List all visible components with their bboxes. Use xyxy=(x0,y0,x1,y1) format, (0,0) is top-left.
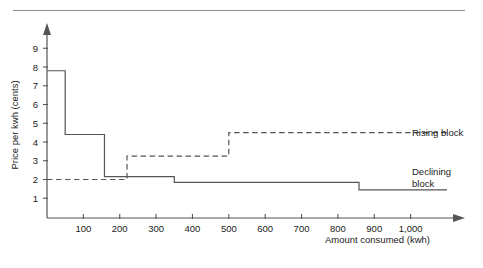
block-pricing-chart: 123456789 1002003004005006007008009001,0… xyxy=(0,0,483,268)
y-tick-label-5: 5 xyxy=(33,118,38,129)
x-tick-label-800: 800 xyxy=(330,223,346,234)
y-axis-title: Price per kwh (cents) xyxy=(9,80,20,169)
declining-block-series xyxy=(47,71,447,190)
x-tick-label-1,000: 1,000 xyxy=(399,223,423,234)
y-tick-label-9: 9 xyxy=(33,43,38,54)
rising-block-series xyxy=(47,133,447,180)
y-tick-label-2: 2 xyxy=(33,174,38,185)
x-tick-label-100: 100 xyxy=(75,223,91,234)
x-tick-label-900: 900 xyxy=(366,223,382,234)
legend-label-rising-block: Rising block xyxy=(412,127,463,138)
legend-label-declining-block-line1: Declining xyxy=(412,166,451,177)
figure-container: 123456789 1002003004005006007008009001,0… xyxy=(0,0,483,268)
y-tick-label-7: 7 xyxy=(33,80,38,91)
y-tick-label-1: 1 xyxy=(33,193,38,204)
y-tick-label-3: 3 xyxy=(33,155,38,166)
y-axis-arrow-icon xyxy=(43,23,51,35)
x-tick-label-400: 400 xyxy=(185,223,201,234)
x-axis-arrow-icon xyxy=(453,214,465,222)
x-tick-label-300: 300 xyxy=(148,223,164,234)
y-tick-label-8: 8 xyxy=(33,62,38,73)
y-tick-label-4: 4 xyxy=(33,137,38,148)
y-axis-tick-labels: 123456789 xyxy=(33,43,38,204)
x-tick-label-500: 500 xyxy=(221,223,237,234)
x-tick-label-600: 600 xyxy=(257,223,273,234)
x-tick-label-200: 200 xyxy=(112,223,128,234)
top-horizontal-rule xyxy=(13,10,465,11)
legend-label-declining-block-line2: block xyxy=(412,178,434,189)
x-axis-tick-labels: 1002003004005006007008009001,000 xyxy=(75,223,422,234)
x-axis-title: Amount consumed (kwh) xyxy=(325,234,430,245)
x-tick-label-700: 700 xyxy=(294,223,310,234)
y-tick-label-6: 6 xyxy=(33,99,38,110)
